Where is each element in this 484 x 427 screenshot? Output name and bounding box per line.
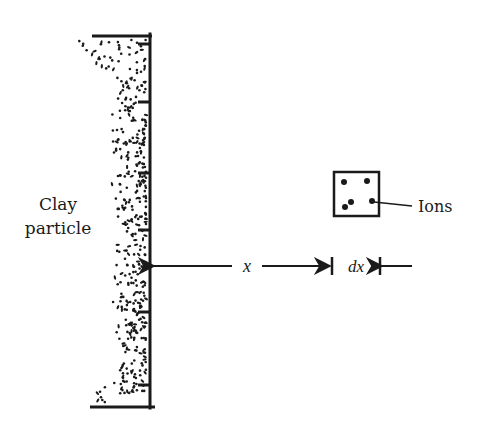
ion-box	[334, 172, 379, 216]
x-label: x	[242, 256, 251, 276]
clay-ion-diagram: Clay particle Ions x dx	[0, 0, 484, 427]
distance-x-dimension	[154, 257, 412, 275]
ion-dot	[341, 179, 347, 185]
ion-dot	[342, 204, 348, 210]
dx-label: dx	[348, 257, 365, 276]
ions-label: Ions	[418, 197, 452, 216]
ion-dots	[341, 178, 375, 210]
ion-volume-element	[334, 172, 412, 216]
ion-dot	[364, 178, 370, 184]
ion-dot	[369, 198, 375, 204]
clay-label-line1: Clay	[39, 194, 78, 214]
diagram-canvas: Clay particle Ions x dx	[0, 0, 484, 427]
surface-tick-marks	[138, 44, 150, 385]
clay-label-line2: particle	[25, 218, 91, 238]
ion-dot	[348, 199, 354, 205]
